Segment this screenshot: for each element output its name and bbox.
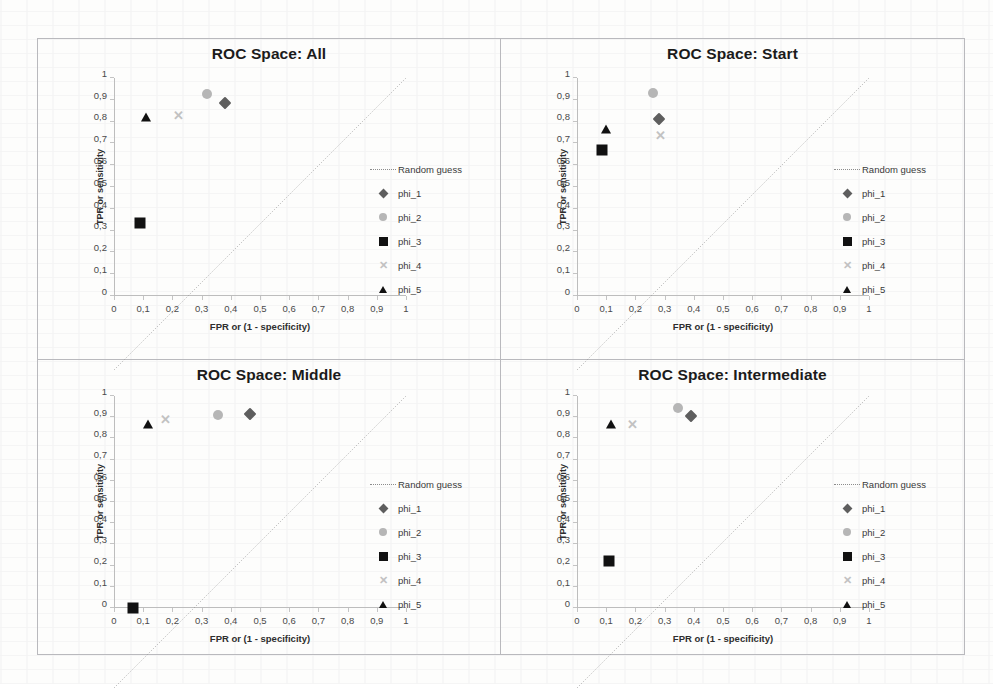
x-axis-tick: [202, 296, 203, 300]
dotted-line-icon: [370, 169, 396, 170]
y-axis-title: TPR or sensitivity: [558, 149, 568, 225]
x-axis-tick: [723, 296, 724, 300]
legend-row[interactable]: phi_1: [368, 181, 486, 205]
legend-row[interactable]: phi_1: [368, 496, 486, 520]
legend-label: phi_2: [862, 527, 885, 538]
x-axis-tick-label: 0,4: [224, 303, 237, 314]
x-axis-tick-label: 0,2: [166, 303, 179, 314]
y-axis-tick-label: 0,7: [94, 449, 107, 460]
y-axis-tick-label: 0,7: [94, 133, 107, 144]
circle-marker-icon: [379, 213, 387, 221]
data-point-phi_3: [127, 603, 138, 614]
chart-legend: Random guessphi_1phi_2phi_3✕phi_4phi_5: [832, 472, 950, 616]
y-axis-tick-label: 0,2: [557, 242, 570, 253]
legend-row[interactable]: phi_2: [832, 520, 950, 544]
y-axis-tick-label: 0,8: [557, 111, 570, 122]
square-marker-icon: [379, 237, 388, 246]
data-point-phi_2: [648, 88, 658, 98]
legend-row[interactable]: phi_5: [832, 277, 950, 301]
x-axis-tick: [694, 296, 695, 300]
data-point-phi_1: [652, 113, 665, 126]
y-axis-tick: [110, 230, 114, 231]
data-point-phi_5: [141, 113, 151, 122]
x-axis-tick-label: 0,7: [775, 303, 788, 314]
legend-key: ✕: [368, 575, 398, 586]
data-point-phi_3: [135, 217, 146, 228]
y-axis-tick: [110, 586, 114, 587]
legend-row[interactable]: ✕phi_4: [832, 253, 950, 277]
roc-panel: ROC Space: Middle00,10,20,30,40,50,60,70…: [38, 360, 501, 654]
x-axis-tick: [811, 296, 812, 300]
legend-label: phi_5: [398, 599, 421, 610]
legend-label: phi_2: [862, 212, 885, 223]
legend-row[interactable]: Random guess: [368, 472, 486, 496]
y-axis-tick: [110, 99, 114, 100]
y-axis-tick: [573, 164, 577, 165]
legend-label: phi_5: [862, 599, 885, 610]
y-axis-tick-label: 0,7: [557, 133, 570, 144]
x-axis-tick: [260, 608, 261, 612]
legend-key: [368, 213, 398, 221]
y-axis-tick-label: 0,2: [94, 242, 107, 253]
data-point-phi_2: [673, 403, 683, 413]
panel-title: ROC Space: Middle: [38, 366, 500, 384]
x-axis-title: FPR or (1 - specificity): [114, 321, 406, 332]
diamond-marker-icon: [378, 503, 388, 513]
y-axis-tick-label: 1: [102, 385, 107, 396]
legend-label: phi_1: [398, 188, 421, 199]
legend-label: phi_4: [398, 260, 421, 271]
y-axis-title: TPR or sensitivity: [95, 149, 105, 225]
x-axis-title: FPR or (1 - specificity): [114, 633, 406, 644]
legend-row[interactable]: phi_2: [368, 520, 486, 544]
y-axis-tick: [573, 437, 577, 438]
legend-row[interactable]: phi_3: [832, 544, 950, 568]
legend-row[interactable]: phi_5: [368, 277, 486, 301]
triangle-marker-icon: [379, 601, 387, 608]
legend-key: [832, 601, 862, 608]
plot-area: 00,10,20,30,40,50,60,70,80,9100,10,20,30…: [114, 78, 406, 296]
x-axis-tick-label: 1: [403, 303, 408, 314]
legend-label: Random guess: [398, 479, 462, 490]
x-axis-tick-label: 0,6: [283, 615, 296, 626]
legend-row[interactable]: Random guess: [832, 472, 950, 496]
legend-key: [368, 528, 398, 536]
legend-key: [368, 169, 398, 170]
legend-row[interactable]: ✕phi_4: [368, 253, 486, 277]
y-axis-tick: [110, 142, 114, 143]
x-axis-tick-label: 0,6: [283, 303, 296, 314]
x-axis-tick: [318, 296, 319, 300]
legend-row[interactable]: phi_3: [368, 229, 486, 253]
y-axis-tick-label: 0: [102, 285, 107, 296]
y-axis-tick: [573, 273, 577, 274]
legend-row[interactable]: phi_5: [368, 592, 486, 616]
legend-row[interactable]: phi_5: [832, 592, 950, 616]
x-axis-tick-label: 1: [866, 303, 871, 314]
x-axis-tick: [665, 608, 666, 612]
legend-key: [832, 528, 862, 536]
legend-row[interactable]: phi_3: [368, 544, 486, 568]
legend-row[interactable]: phi_1: [832, 496, 950, 520]
legend-label: phi_2: [398, 212, 421, 223]
x-axis-tick: [752, 608, 753, 612]
legend-row[interactable]: phi_3: [832, 229, 950, 253]
x-axis-tick-label: 1: [403, 615, 408, 626]
roc-panel: ROC Space: Intermediate00,10,20,30,40,50…: [501, 360, 964, 654]
legend-row[interactable]: Random guess: [368, 157, 486, 181]
circle-marker-icon: [379, 528, 387, 536]
legend-row[interactable]: Random guess: [832, 157, 950, 181]
legend-row[interactable]: phi_2: [832, 205, 950, 229]
x-axis-tick: [202, 608, 203, 612]
x-marker-icon: ✕: [379, 575, 388, 586]
x-axis-tick-label: 0,1: [600, 303, 613, 314]
y-axis-tick-label: 1: [102, 67, 107, 78]
legend-label: phi_3: [398, 551, 421, 562]
legend-row[interactable]: ✕phi_4: [368, 568, 486, 592]
y-axis-tick: [573, 416, 577, 417]
legend-key: [368, 237, 398, 246]
x-axis-tick-label: 0,4: [687, 615, 700, 626]
legend-row[interactable]: phi_1: [832, 181, 950, 205]
legend-row[interactable]: ✕phi_4: [832, 568, 950, 592]
legend-label: phi_1: [862, 503, 885, 514]
legend-row[interactable]: phi_2: [368, 205, 486, 229]
y-axis-tick: [573, 121, 577, 122]
